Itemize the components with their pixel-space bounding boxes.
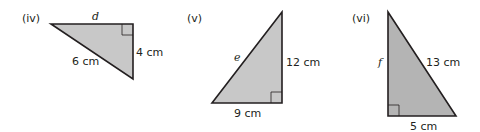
side-9cm-label: 9 cm [234, 107, 261, 120]
side-e-label: e [234, 51, 241, 64]
side-4cm-label: 4 cm [136, 46, 163, 59]
triangles-figure: (iv) d 4 cm 6 cm (v) e 12 cm 9 cm (vi) f… [0, 0, 480, 132]
triangle-iv: (iv) d 4 cm 6 cm [22, 10, 163, 79]
side-6cm-label: 6 cm [72, 55, 99, 68]
side-5cm-label: 5 cm [410, 120, 437, 132]
triangle-v-label: (v) [187, 12, 202, 25]
side-d-label: d [92, 10, 99, 23]
triangle-iv-shape [51, 24, 133, 79]
side-13cm-label: 13 cm [426, 56, 460, 69]
triangle-v-shape [212, 12, 282, 103]
side-f-label: f [377, 56, 384, 69]
triangle-vi: (vi) f 13 cm 5 cm [352, 12, 460, 132]
triangle-v: (v) e 12 cm 9 cm [187, 12, 320, 120]
triangle-iv-label: (iv) [22, 12, 40, 25]
triangle-vi-label: (vi) [352, 12, 370, 25]
side-12cm-label: 12 cm [286, 56, 320, 69]
